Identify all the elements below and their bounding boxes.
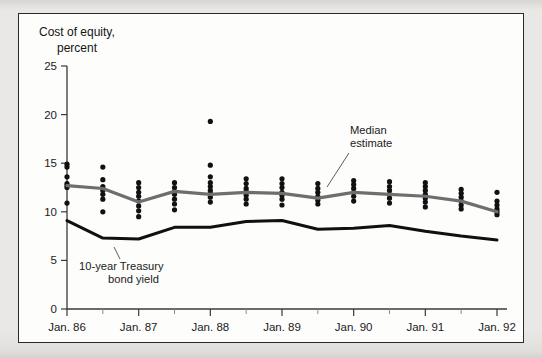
scatter-point (459, 206, 464, 211)
scatter-point (172, 197, 177, 202)
scatter-point (423, 199, 428, 204)
scatter-point (172, 180, 177, 185)
scatter-point (423, 204, 428, 209)
scatter-point (244, 181, 249, 186)
scatter-point (136, 185, 141, 190)
x-tick-label: Jan. 87 (120, 321, 158, 333)
chart-frame: Cost of equity, percent 0510152025 Jan. … (18, 13, 524, 343)
chart-plot: Cost of equity, percent 0510152025 Jan. … (19, 14, 523, 342)
scatter-point (172, 201, 177, 206)
median-annotation-line2: estimate (350, 137, 392, 149)
scatter-point (100, 209, 105, 214)
scatter-point (279, 202, 284, 207)
figure-page: Cost of equity, percent 0510152025 Jan. … (0, 0, 542, 358)
scatter-point (172, 207, 177, 212)
median-annotation-line1: Median (350, 124, 387, 136)
scatter-point (64, 174, 69, 179)
y-tick-label: 10 (44, 206, 57, 218)
scatter-point (315, 201, 320, 206)
chart-title-line2: percent (57, 41, 98, 55)
y-tick-label: 0 (51, 303, 57, 315)
scatter-point (64, 200, 69, 205)
scatter-point (315, 181, 320, 186)
scatter-point (351, 199, 356, 204)
x-tick-label: Jan. 92 (478, 321, 516, 333)
scatter-point (244, 201, 249, 206)
treasury-annotation-line1: 10-year Treasury (79, 260, 164, 272)
scatter-point (136, 214, 141, 219)
scatter-point (387, 200, 392, 205)
y-tick-label: 15 (44, 157, 57, 169)
x-tick-label: Jan. 90 (335, 321, 373, 333)
scatter-point (136, 203, 141, 208)
median-annotation: Median estimate (327, 124, 392, 187)
scatter-point (208, 199, 213, 204)
scatter-point (208, 119, 213, 124)
scatter-point (279, 197, 284, 202)
treasury-leader-line (114, 247, 120, 259)
scatter-point (387, 179, 392, 184)
scatter-points (64, 119, 499, 219)
scatter-point (244, 176, 249, 181)
scatter-point (494, 190, 499, 195)
scatter-point (136, 180, 141, 185)
scatter-point (100, 164, 105, 169)
x-tick-labels: Jan. 86Jan. 87Jan. 88Jan. 89Jan. 90Jan. … (48, 321, 516, 333)
y-tick-label: 25 (44, 60, 57, 72)
scatter-point (64, 164, 69, 169)
scatter-point (136, 194, 141, 199)
x-tick-label: Jan. 88 (191, 321, 229, 333)
y-tick-label: 5 (51, 254, 57, 266)
scatter-point (244, 197, 249, 202)
x-tick-label: Jan. 86 (48, 321, 86, 333)
scatter-point (100, 177, 105, 182)
median-leader-line (327, 153, 349, 187)
scatter-point (208, 163, 213, 168)
treasury-yield-line (67, 221, 497, 240)
scatter-point (136, 208, 141, 213)
x-tick-label: Jan. 89 (263, 321, 301, 333)
x-tick-label: Jan. 91 (406, 321, 444, 333)
treasury-annotation-line2: bond yield (108, 273, 159, 285)
treasury-annotation: 10-year Treasury bond yield (79, 247, 164, 285)
scatter-point (279, 185, 284, 190)
scatter-point (387, 196, 392, 201)
scatter-point (279, 176, 284, 181)
scatter-point (100, 192, 105, 197)
scatter-point (100, 197, 105, 202)
chart-title-line1: Cost of equity, (39, 25, 115, 39)
scatter-point (351, 194, 356, 199)
scatter-point (208, 174, 213, 179)
y-tick-label: 20 (44, 109, 57, 121)
y-tick-labels: 0510152025 (44, 60, 57, 315)
